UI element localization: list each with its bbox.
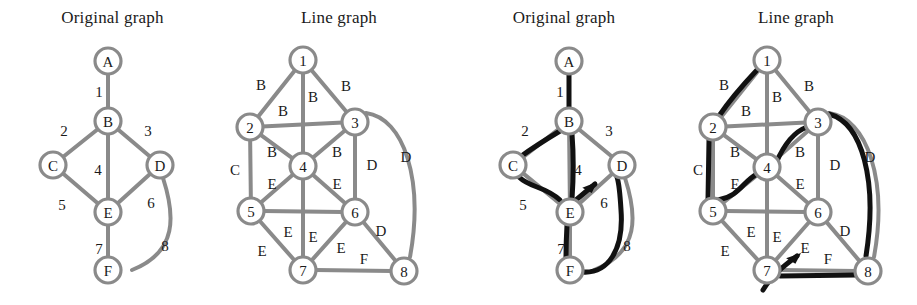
highlight-segment-h7: [566, 225, 567, 258]
graph-node-4[interactable]: 4: [754, 154, 780, 180]
edge-label-e12: B: [256, 77, 266, 93]
edge-label-2: 2: [60, 123, 68, 139]
edge-label-e14: B: [772, 89, 782, 105]
edge-label-1: 1: [95, 84, 103, 100]
panel-original-1: Original graph12345678ABCDEF: [0, 0, 225, 305]
graph-edge-e56: [725, 211, 806, 212]
graph-node-C[interactable]: C: [40, 152, 66, 178]
edge-label-e56: E: [746, 224, 755, 240]
panel-original-2: Original graph12345678ABCDEF: [453, 0, 675, 305]
edge-label-e67: E: [336, 240, 345, 256]
graph-canvas: BBBBBBCDDEEEEEEDF12345678: [675, 0, 917, 305]
graph-node-3[interactable]: 3: [342, 109, 368, 135]
edge-label-e57: E: [257, 243, 266, 259]
edge-label-e78: F: [360, 251, 368, 267]
edge-label-e14: B: [308, 89, 318, 105]
graph-node-A[interactable]: A: [556, 48, 582, 74]
node-label: B: [103, 114, 113, 130]
edge-label-1: 1: [556, 84, 564, 100]
graph-node-8[interactable]: 8: [855, 258, 881, 284]
node-label: 3: [351, 115, 359, 131]
edge-label-e46: E: [332, 176, 341, 192]
graph-node-8[interactable]: 8: [391, 258, 417, 284]
edge-label-e25: C: [693, 162, 703, 178]
node-label: C: [508, 158, 518, 174]
graph-node-C[interactable]: C: [500, 152, 526, 178]
graph-node-B[interactable]: B: [95, 108, 121, 134]
edge-label-2: 2: [521, 123, 529, 139]
node-label: 8: [864, 264, 872, 280]
edge-label-e13: B: [341, 78, 351, 94]
edge-label-e36: D: [830, 157, 841, 173]
edge-label-e45: E: [267, 176, 276, 192]
graph-node-2[interactable]: 2: [700, 114, 726, 140]
graph-edge-e23: [725, 123, 806, 127]
edge-label-8: 8: [623, 238, 631, 254]
edge-label-e24: B: [730, 144, 740, 160]
node-label: C: [48, 158, 58, 174]
edge-label-e45: E: [730, 176, 739, 192]
edge-label-e34: B: [332, 144, 342, 160]
graph-node-5[interactable]: 5: [238, 198, 264, 224]
edge-label-6: 6: [600, 195, 608, 211]
graph-node-5[interactable]: 5: [700, 198, 726, 224]
graph-edge-e25: [250, 139, 251, 199]
graph-node-2[interactable]: 2: [237, 114, 263, 140]
graph-node-D[interactable]: D: [147, 152, 173, 178]
graph-node-F[interactable]: F: [95, 257, 121, 283]
graph-edge-2: [62, 128, 98, 157]
graph-canvas: 12345678ABCDEF: [0, 0, 225, 305]
node-label: A: [103, 54, 114, 70]
edge-label-e23: B: [278, 103, 288, 119]
graph-node-1[interactable]: 1: [290, 47, 316, 73]
graph-node-A[interactable]: A: [95, 48, 121, 74]
edge-label-e68: D: [840, 223, 851, 239]
graph-edge-e78: [779, 270, 856, 271]
node-label: 6: [814, 205, 822, 221]
graph-node-E[interactable]: E: [95, 199, 121, 225]
edge-label-e38: D: [401, 149, 412, 165]
edge-label-e47: E: [772, 229, 781, 245]
graph-node-D[interactable]: D: [609, 152, 635, 178]
graph-node-3[interactable]: 3: [805, 109, 831, 135]
graph-node-6[interactable]: 6: [805, 199, 831, 225]
graph-edge-e45: [260, 174, 294, 203]
edge-label-5: 5: [58, 197, 66, 213]
graph-node-B[interactable]: B: [556, 108, 582, 134]
edge-label-e34: B: [795, 144, 805, 160]
node-label: B: [564, 114, 574, 130]
edge-label-e67: E: [800, 240, 809, 256]
panel-line-1: Line graphBBBBBBCDDEEEEEEDF12345678: [225, 0, 453, 305]
edge-label-8: 8: [161, 238, 169, 254]
node-label: 2: [709, 120, 717, 136]
graph-node-7[interactable]: 7: [754, 257, 780, 283]
graph-canvas: BBBBBBCDDEEEEEEDF12345678: [225, 0, 453, 305]
edge-label-e24: B: [267, 144, 277, 160]
graph-edge-e23: [262, 123, 343, 127]
edge-label-e78: F: [824, 251, 832, 267]
highlight-segment-h4: [572, 134, 573, 199]
graph-node-6[interactable]: 6: [342, 199, 368, 225]
graph-edge-e78: [315, 270, 392, 271]
graph-node-7[interactable]: 7: [290, 257, 316, 283]
highlight-segment-h25: [708, 140, 709, 199]
node-label: 8: [400, 264, 408, 280]
graph-edge-e56: [263, 211, 343, 212]
edge-label-e57: E: [720, 243, 729, 259]
graph-canvas: 12345678ABCDEF: [453, 0, 675, 305]
node-label: E: [565, 205, 574, 221]
graph-node-F[interactable]: F: [557, 257, 583, 283]
graph-node-1[interactable]: 1: [754, 47, 780, 73]
graph-node-E[interactable]: E: [557, 199, 583, 225]
node-label: 5: [709, 204, 717, 220]
node-label: 2: [246, 120, 254, 136]
node-label: A: [564, 54, 575, 70]
edge-label-e56: E: [283, 224, 292, 240]
edge-label-e47: E: [308, 229, 317, 245]
edge-label-3: 3: [605, 123, 613, 139]
edge-label-layer: BBBBBBCDDEEEEEEDF: [230, 77, 412, 267]
node-label: 3: [814, 115, 822, 131]
highlight-segment-h87: [780, 275, 856, 276]
edge-label-7: 7: [95, 241, 103, 257]
graph-node-4[interactable]: 4: [290, 153, 316, 179]
